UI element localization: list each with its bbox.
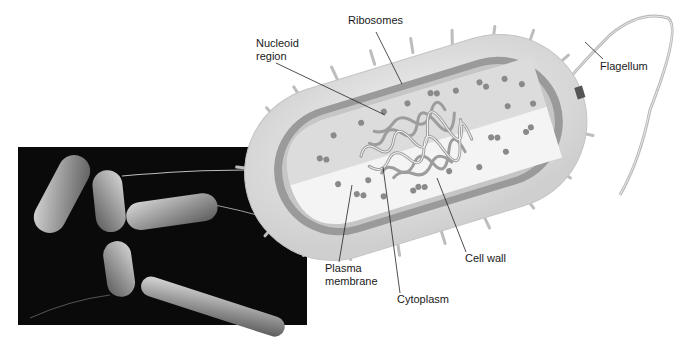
label-nucleoid-region: Nucleoid region (256, 37, 299, 63)
label-cell-wall: Cell wall (465, 252, 506, 265)
bacterial-cell-diagram: Ribosomes Nucleoid region Flagellum Plas… (0, 0, 680, 344)
label-flagellum: Flagellum (600, 60, 648, 73)
diagram-canvas (0, 0, 680, 344)
label-plasma-membrane: Plasma membrane (325, 262, 378, 288)
label-ribosomes: Ribosomes (348, 14, 403, 27)
label-cytoplasm: Cytoplasm (397, 293, 449, 306)
